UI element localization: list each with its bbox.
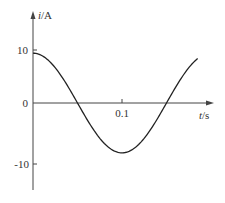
y-tick-label-0: 0	[23, 97, 29, 109]
y-axis-label: i/A	[38, 9, 52, 21]
y-tick-label-neg10: -10	[14, 158, 29, 170]
x-axis-arrow-icon	[206, 101, 214, 106]
y-axis-arrow-icon	[31, 11, 36, 19]
x-axis-label: t/s	[199, 109, 209, 121]
current-waveform-chart: i/A t/s 10 0 -10 0.1	[0, 0, 225, 203]
y-tick-label-10: 10	[17, 44, 29, 56]
x-tick-label-0.1: 0.1	[115, 107, 129, 119]
